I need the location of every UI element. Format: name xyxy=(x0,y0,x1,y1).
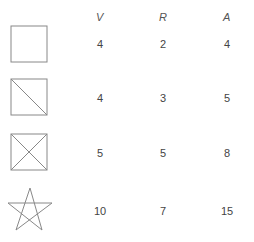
header-a: A xyxy=(223,11,230,23)
square-two-diagonals-icon xyxy=(10,133,50,177)
row3-a: 8 xyxy=(215,147,239,159)
row1-v: 4 xyxy=(88,38,112,50)
row3-v: 5 xyxy=(88,147,112,159)
row2-r: 3 xyxy=(151,92,175,104)
row3-r: 5 xyxy=(151,147,175,159)
square-icon xyxy=(10,25,50,69)
row2-v: 4 xyxy=(88,92,112,104)
row2-a: 5 xyxy=(215,92,239,104)
row4-a: 15 xyxy=(215,205,239,217)
row1-a: 4 xyxy=(215,38,239,50)
row4-v: 10 xyxy=(88,205,112,217)
row1-r: 2 xyxy=(151,38,175,50)
square-one-diagonal-icon xyxy=(10,78,50,122)
pentagram-star-icon xyxy=(6,187,54,237)
row4-r: 7 xyxy=(151,205,175,217)
header-v: V xyxy=(96,11,103,23)
header-r: R xyxy=(159,11,167,23)
